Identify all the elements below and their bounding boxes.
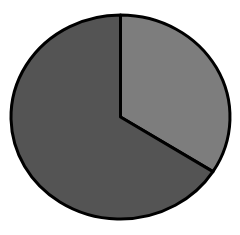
pie-chart-figure xyxy=(0,0,240,235)
pie-chart xyxy=(0,0,240,235)
